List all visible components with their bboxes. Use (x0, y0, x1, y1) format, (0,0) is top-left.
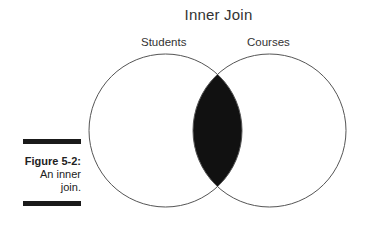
caption-bottom-rule (23, 201, 81, 206)
figure-number: Figure 5-2: (10, 155, 81, 168)
figure-caption: Figure 5-2: An inner join. (10, 155, 81, 194)
caption-line-1: An inner (10, 168, 81, 181)
caption-line-2: join. (10, 181, 81, 194)
caption-top-rule (23, 139, 81, 144)
venn-diagram (0, 0, 367, 233)
intersection-region (193, 54, 346, 207)
